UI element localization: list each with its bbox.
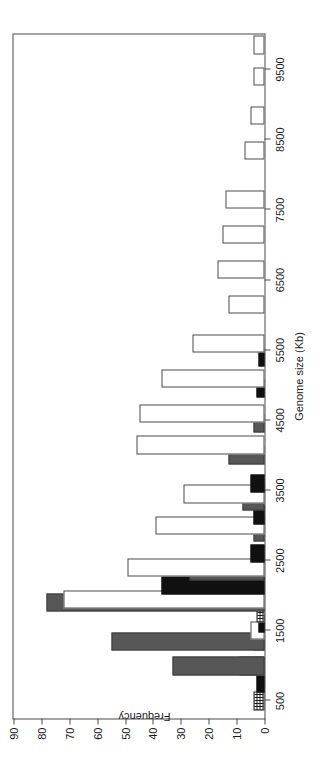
x-axis-tick [264, 279, 270, 280]
x-axis-tick-label: 2500 [273, 548, 285, 572]
histogram-bar [139, 404, 265, 422]
y-axis-tick-label: 60 [91, 727, 103, 739]
histogram-bar [250, 474, 264, 492]
histogram-chart: 0102030405060708090500150025003500450055… [0, 0, 331, 759]
x-axis-tick-label: 8500 [273, 127, 285, 151]
x-axis-tick [264, 489, 270, 490]
histogram-bar [217, 260, 264, 278]
histogram-bar [225, 190, 264, 208]
x-axis-tick-label: 6500 [273, 267, 285, 291]
x-axis-tick [264, 419, 270, 420]
y-axis-tick-label: 50 [119, 727, 131, 739]
histogram-bar [172, 656, 264, 674]
x-axis-tick [264, 559, 270, 560]
histogram-bar [253, 67, 264, 85]
rotated-chart-wrapper: 0102030405060708090500150025003500450055… [0, 0, 331, 759]
histogram-bar [244, 141, 264, 159]
x-axis-tick [264, 68, 270, 69]
y-axis-title: Frequency [18, 711, 271, 723]
histogram-bar [127, 558, 264, 576]
x-axis-tick-label: 1500 [273, 618, 285, 642]
plot-area: 0102030405060708090500150025003500450055… [12, 33, 265, 719]
histogram-bar [253, 691, 264, 709]
histogram-bar [155, 516, 264, 534]
x-axis-tick [264, 138, 270, 139]
y-axis-tick-label: 30 [174, 727, 186, 739]
x-axis-tick-label: 500 [273, 691, 285, 709]
y-axis-tick-label: 70 [63, 727, 75, 739]
x-axis-tick-label: 4500 [273, 408, 285, 432]
histogram-bar [222, 225, 264, 243]
histogram-bar [256, 674, 264, 692]
x-axis-tick [264, 349, 270, 350]
y-axis-tick-label: 90 [7, 727, 19, 739]
histogram-bar [136, 435, 264, 453]
y-axis-tick-label: 40 [146, 727, 158, 739]
histogram-bar [250, 544, 264, 562]
histogram-bar [250, 106, 264, 124]
figure-canvas: 0102030405060708090500150025003500450055… [0, 0, 331, 759]
x-axis-tick [264, 208, 270, 209]
histogram-bar [111, 632, 264, 650]
y-axis-tick-label: 0 [258, 727, 270, 733]
y-axis-tick-label: 80 [35, 727, 47, 739]
histogram-bar [161, 369, 264, 387]
x-axis-tick-label: 9500 [273, 57, 285, 81]
y-axis-tick-label: 20 [202, 727, 214, 739]
histogram-bar [228, 295, 264, 313]
histogram-bar [253, 35, 264, 53]
x-axis-tick-label: 5500 [273, 337, 285, 361]
x-axis-tick-label: 3500 [273, 478, 285, 502]
y-axis-tick-label: 10 [230, 727, 242, 739]
x-axis-tick [264, 699, 270, 700]
y-axis-tick [13, 718, 14, 724]
x-axis-tick [264, 629, 270, 630]
histogram-bar [192, 334, 265, 352]
x-axis-tick-label: 7500 [273, 197, 285, 221]
x-axis-title: Genome size (Kb) [292, 33, 304, 719]
